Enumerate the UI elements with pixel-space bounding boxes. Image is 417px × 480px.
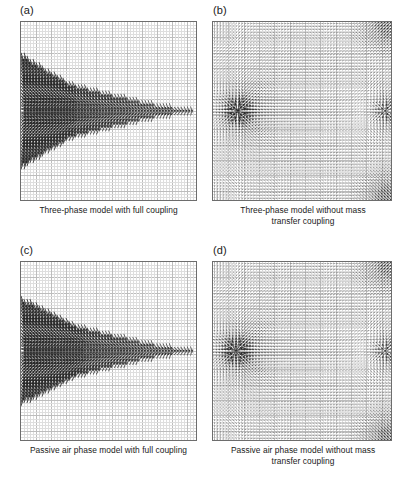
- panel-d-caption: Passive air phase model without mass tra…: [207, 445, 399, 466]
- panel-d-plot-box: [212, 261, 392, 441]
- panel-c-plot-box: [20, 261, 197, 441]
- panel-a-quiver-canvas: [21, 22, 196, 200]
- panel-c: (c) Passive air phase model with full co…: [0, 240, 207, 480]
- panel-b-label: (b): [213, 4, 227, 17]
- panel-d: (d) Passive air phase model without mass…: [207, 240, 417, 480]
- panel-d-label: (d): [213, 244, 227, 257]
- panel-a-label: (a): [20, 4, 34, 17]
- panel-b-quiver-canvas: [213, 22, 391, 200]
- panel-d-quiver-canvas: [213, 262, 391, 440]
- figure-four-panel-vector-fields: (a) Three-phase model with full coupling…: [0, 0, 417, 480]
- panel-b: (b) Three-phase model without mass trans…: [207, 0, 417, 240]
- panel-b-caption: Three-phase model without mass transfer …: [207, 205, 399, 226]
- panel-c-quiver-canvas: [21, 262, 196, 440]
- panel-a-caption: Three-phase model with full coupling: [10, 205, 207, 216]
- panel-b-plot-box: [212, 21, 392, 201]
- panel-c-label: (c): [20, 244, 33, 257]
- panel-a-plot-box: [20, 21, 197, 201]
- panel-c-caption: Passive air phase model with full coupli…: [10, 445, 207, 456]
- panel-a: (a) Three-phase model with full coupling: [0, 0, 207, 240]
